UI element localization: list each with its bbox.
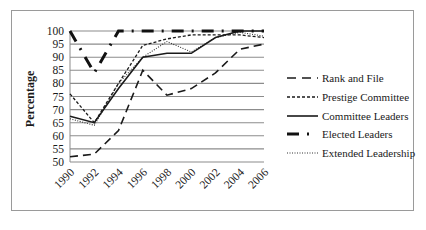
x-axis-ticks: 199019921994199619982000200220042006 — [52, 166, 271, 191]
y-tick-label: 100 — [47, 25, 65, 37]
line-chart: 50556065707580859095100 1990199219941996… — [0, 0, 426, 230]
gridlines — [70, 31, 264, 162]
legend-label: Elected Leaders — [322, 128, 393, 140]
legend-item-rank-and-file: Rank and File — [287, 72, 384, 84]
legend: Rank and FilePrestige CommitteeCommittee… — [287, 72, 416, 159]
legend-label: Rank and File — [322, 72, 384, 84]
y-tick-label: 95 — [53, 38, 65, 50]
series-lines — [70, 31, 264, 157]
x-tick-label: 2000 — [173, 166, 198, 191]
y-tick-label: 50 — [53, 156, 65, 168]
legend-label: Prestige Committee — [322, 91, 409, 103]
x-tick-label: 2006 — [246, 166, 271, 191]
series-line-elected-leaders — [70, 31, 264, 73]
x-tick-label: 2002 — [197, 166, 222, 191]
y-axis-label: Percentage — [23, 70, 37, 127]
legend-label: Extended Leadership — [322, 147, 416, 159]
y-tick-label: 80 — [53, 77, 65, 89]
y-tick-label: 85 — [53, 64, 65, 76]
x-tick-label: 1990 — [52, 166, 77, 191]
x-tick-label: 1996 — [124, 166, 149, 191]
y-tick-label: 60 — [53, 130, 65, 142]
series-line-extended-leadership — [70, 32, 264, 125]
y-tick-label: 70 — [53, 104, 65, 116]
y-tick-label: 55 — [53, 143, 65, 155]
series-line-committee-leaders — [70, 31, 264, 123]
x-tick-label: 1992 — [76, 166, 101, 191]
legend-item-prestige-committee: Prestige Committee — [287, 91, 409, 103]
x-tick-label: 1998 — [149, 166, 174, 191]
y-tick-label: 90 — [53, 51, 65, 63]
y-axis-ticks: 50556065707580859095100 — [47, 25, 65, 168]
legend-item-committee-leaders: Committee Leaders — [287, 110, 408, 122]
legend-item-extended-leadership: Extended Leadership — [287, 147, 416, 159]
y-tick-label: 75 — [53, 91, 65, 103]
x-tick-label: 1994 — [100, 166, 125, 191]
legend-label: Committee Leaders — [322, 110, 408, 122]
x-tick-label: 2004 — [221, 166, 246, 191]
legend-item-elected-leaders: Elected Leaders — [287, 128, 393, 140]
y-tick-label: 65 — [53, 117, 65, 129]
series-line-rank-and-file — [70, 44, 264, 157]
